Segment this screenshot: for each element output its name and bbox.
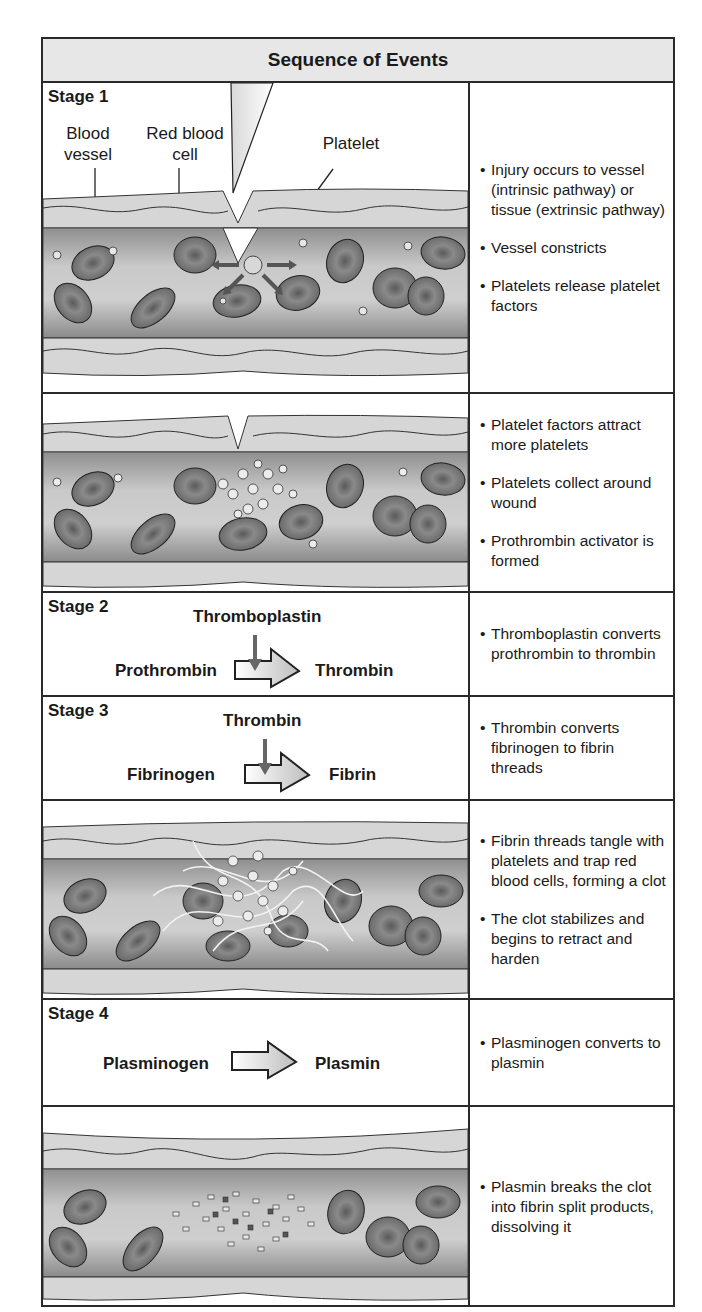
row-clot-dissolution: Plasmin breaks the clot into fibrin spli… bbox=[43, 1107, 673, 1307]
description-cell: Plasmin breaks the clot into fibrin spli… bbox=[470, 1107, 673, 1307]
bullet: Platelets collect around wound bbox=[480, 473, 667, 513]
reaction-arrow-icon bbox=[233, 633, 303, 689]
catalyst-label: Thromboplastin bbox=[193, 607, 321, 627]
row-stage-2: Stage 2 Thromboplastin Prothrombin Throm… bbox=[43, 593, 673, 697]
clot-dissolution-illustration bbox=[43, 1107, 468, 1307]
stage-label: Stage 4 bbox=[48, 1004, 108, 1024]
reactant-label: Plasminogen bbox=[103, 1054, 209, 1074]
description-cell: Plasminogen converts to plasmin bbox=[470, 1000, 673, 1105]
bullet: Fibrin threads tangle with platelets and… bbox=[480, 831, 667, 891]
row-clot-formation: Fibrin threads tangle with platelets and… bbox=[43, 801, 673, 1000]
row-stage-4: Stage 4 Plasminogen Plasmin Plasminogen … bbox=[43, 1000, 673, 1107]
reaction-cell: Stage 3 Thrombin Fibrinogen Fibrin bbox=[43, 697, 470, 799]
vessel-injury-illustration bbox=[43, 83, 468, 394]
description-cell: Platelet factors attract more platelets … bbox=[470, 394, 673, 591]
row-platelet-plug: Platelet factors attract more platelets … bbox=[43, 394, 673, 593]
bullet: Platelets release platelet factors bbox=[480, 276, 667, 316]
row-stage-1: Stage 1 Bloodvessel Red bloodcell Platel… bbox=[43, 83, 673, 394]
product-label: Fibrin bbox=[329, 765, 376, 785]
description-cell: Thrombin converts fibrinogen to fibrin t… bbox=[470, 697, 673, 799]
reaction-arrow-icon bbox=[230, 1040, 300, 1080]
illustration-cell bbox=[43, 394, 470, 591]
reaction-cell: Stage 2 Thromboplastin Prothrombin Throm… bbox=[43, 593, 470, 695]
table-title: Sequence of Events bbox=[43, 39, 673, 83]
description-cell: Thromboplastin converts prothrombin to t… bbox=[470, 593, 673, 695]
reaction-cell: Stage 4 Plasminogen Plasmin bbox=[43, 1000, 470, 1105]
bullet: Prothrombin activator is formed bbox=[480, 531, 667, 571]
catalyst-label: Thrombin bbox=[223, 711, 301, 731]
illustration-cell bbox=[43, 801, 470, 998]
row-stage-3: Stage 3 Thrombin Fibrinogen Fibrin Throm… bbox=[43, 697, 673, 801]
bullet: Vessel constricts bbox=[480, 238, 667, 258]
bullet: Injury occurs to vessel (intrinsic pathw… bbox=[480, 160, 667, 220]
reactant-label: Prothrombin bbox=[115, 661, 217, 681]
description-cell: Fibrin threads tangle with platelets and… bbox=[470, 801, 673, 998]
stage-label: Stage 2 bbox=[48, 597, 108, 617]
platelet-aggregation-illustration bbox=[43, 394, 468, 593]
bullet: Platelet factors attract more platelets bbox=[480, 415, 667, 455]
description-cell: Injury occurs to vessel (intrinsic pathw… bbox=[470, 83, 673, 392]
reactant-label: Fibrinogen bbox=[127, 765, 215, 785]
product-label: Plasmin bbox=[315, 1054, 380, 1074]
bullet: Thrombin converts fibrinogen to fibrin t… bbox=[480, 718, 667, 778]
bullet: Plasmin breaks the clot into fibrin spli… bbox=[480, 1177, 667, 1237]
bullet: Thromboplastin converts prothrombin to t… bbox=[480, 624, 667, 664]
bullet: The clot stabilizes and begins to retrac… bbox=[480, 909, 667, 969]
sequence-table: Sequence of Events Stage 1 Bloodvessel R… bbox=[41, 37, 675, 1307]
clot-formation-illustration bbox=[43, 801, 468, 1000]
illustration-cell: Stage 1 Bloodvessel Red bloodcell Platel… bbox=[43, 83, 470, 392]
product-label: Thrombin bbox=[315, 661, 393, 681]
reaction-arrow-icon bbox=[243, 737, 313, 793]
stage-label: Stage 3 bbox=[48, 701, 108, 721]
illustration-cell bbox=[43, 1107, 470, 1307]
bullet: Plasminogen converts to plasmin bbox=[480, 1033, 667, 1073]
